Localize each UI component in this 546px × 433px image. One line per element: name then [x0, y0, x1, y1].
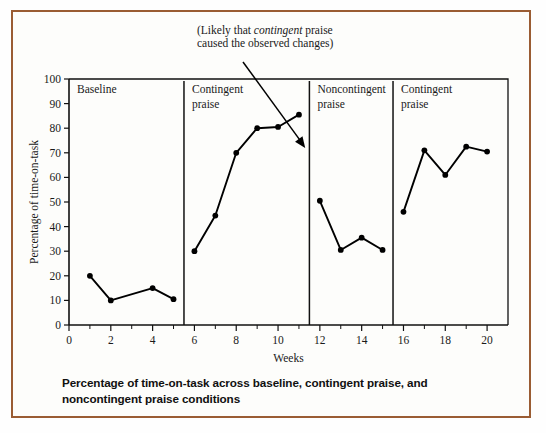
phase-label: Contingent: [401, 83, 453, 96]
y-tick-label: 40: [50, 221, 62, 233]
data-point: [380, 247, 386, 253]
data-series-line: [320, 201, 383, 250]
data-point: [484, 149, 490, 155]
x-tick-label: 20: [481, 334, 493, 346]
annotation-leader-line: [243, 62, 301, 142]
x-tick-label: 8: [233, 334, 239, 346]
y-tick-label: 0: [55, 319, 61, 331]
y-tick-label: 80: [50, 122, 62, 134]
data-point: [108, 298, 114, 304]
figure-caption: Percentage of time-on-task across baseli…: [62, 375, 487, 407]
x-tick-label: 16: [398, 334, 410, 346]
phase-label: Noncontingent: [317, 83, 386, 96]
x-tick-label: 0: [66, 334, 72, 346]
phase-label: praise: [192, 98, 219, 111]
data-point: [171, 296, 177, 302]
data-point: [296, 112, 302, 118]
phase-label: Baseline: [77, 83, 117, 95]
data-point: [192, 248, 198, 254]
y-tick-label: 100: [44, 73, 62, 85]
x-tick-label: 6: [192, 334, 198, 346]
x-tick-label: 4: [150, 334, 156, 346]
y-tick-label: 60: [50, 171, 62, 183]
data-series-line: [403, 147, 487, 212]
y-tick-label: 70: [50, 147, 62, 159]
data-point: [442, 172, 448, 178]
data-point: [401, 209, 407, 215]
data-point: [463, 144, 469, 150]
data-point: [254, 125, 260, 131]
data-series-line: [194, 115, 299, 252]
chart-canvas: 010203040506070809010002468101214161820W…: [0, 0, 546, 433]
y-tick-label: 20: [50, 270, 62, 282]
data-point: [359, 235, 365, 241]
phase-label: praise: [317, 98, 344, 111]
y-tick-label: 30: [50, 245, 62, 257]
data-point: [212, 213, 218, 219]
annotation-arrowhead: [295, 136, 305, 148]
figure-container: 010203040506070809010002468101214161820W…: [0, 0, 546, 433]
y-tick-label: 10: [50, 294, 62, 306]
plot-frame: [69, 79, 508, 325]
data-series-line: [90, 276, 174, 301]
x-tick-label: 10: [272, 334, 284, 346]
x-tick-label: 18: [440, 334, 452, 346]
data-point: [317, 198, 323, 204]
data-point: [233, 150, 239, 156]
phase-label: Contingent: [192, 83, 244, 96]
data-point: [338, 247, 344, 253]
y-tick-label: 90: [50, 98, 62, 110]
y-tick-label: 50: [50, 196, 62, 208]
x-tick-label: 14: [356, 334, 368, 346]
data-point: [87, 273, 93, 279]
annotation-text-line2: caused the observed changes): [197, 37, 334, 50]
x-axis-title: Weeks: [273, 352, 304, 364]
x-tick-label: 2: [108, 334, 114, 346]
data-point: [150, 285, 156, 291]
y-axis-title: Percentage of time-on-task: [28, 140, 41, 264]
data-point: [421, 147, 427, 153]
data-point: [275, 124, 281, 130]
annotation-text-line1: (Likely that contingent praise: [197, 24, 333, 37]
x-tick-label: 12: [314, 334, 326, 346]
phase-label: praise: [401, 98, 428, 111]
